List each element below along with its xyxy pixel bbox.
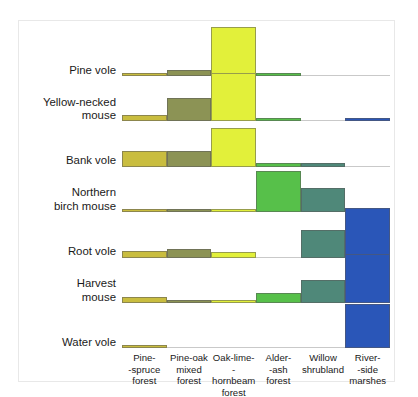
bar — [122, 251, 167, 258]
bar — [256, 171, 301, 213]
x-tick-label-line: Oak-lime- — [211, 352, 256, 364]
x-tick-label-line: -side — [345, 364, 390, 376]
species-label: Harvestmouse — [18, 277, 116, 304]
bar — [211, 128, 256, 167]
x-tick-label-line: Pine- — [122, 352, 167, 364]
bar — [122, 115, 167, 122]
species-label-line: Northern — [18, 186, 116, 199]
bar — [211, 73, 256, 121]
x-tick-label-line: shrubland — [301, 364, 346, 376]
x-tick-label: Willowshrubland — [301, 352, 346, 375]
bar — [345, 254, 390, 303]
species-label: Yellow-neckedmouse — [18, 96, 116, 123]
bar — [167, 249, 212, 258]
x-tick-label-line: mixed — [167, 364, 212, 376]
bar — [345, 304, 390, 348]
bar — [211, 252, 256, 257]
x-tick-label-line: Pine-oak — [167, 352, 212, 364]
plot-area: Pine voleYellow-neckedmouseBank voleNort… — [18, 20, 395, 382]
species-label-line: Water vole — [18, 336, 116, 349]
x-axis-tick-labels: Pine--spruceforestPine-oakmixedforestOak… — [122, 352, 390, 397]
bar — [167, 151, 212, 167]
species-label-line: Bank vole — [18, 154, 116, 167]
x-tick-label: Oak-lime--hornbeamforest — [211, 352, 256, 397]
species-label-line: Harvest — [18, 277, 116, 290]
bar — [256, 293, 301, 303]
bar — [211, 300, 256, 303]
bar — [122, 297, 167, 304]
bar — [301, 188, 346, 213]
x-tick-label-line: Alder- — [256, 352, 301, 364]
species-label: Bank vole — [18, 154, 116, 167]
x-tick-label-line: Willow — [301, 352, 346, 364]
x-tick-label: Pine--spruceforest — [122, 352, 167, 387]
bar — [167, 209, 212, 212]
species-label: Water vole — [18, 336, 116, 349]
x-tick-label: Alder--ashforest — [256, 352, 301, 387]
species-label-line: Root vole — [18, 245, 116, 258]
x-tick-label-line: forest — [122, 375, 167, 387]
bar — [345, 208, 390, 257]
species-label-line: mouse — [18, 291, 116, 304]
bar — [167, 98, 212, 121]
x-tick-label-line: forest — [256, 375, 301, 387]
species-label: Root vole — [18, 245, 116, 258]
bar — [122, 73, 167, 76]
bar — [122, 209, 167, 212]
species-label-line: Yellow-necked — [18, 96, 116, 109]
bar — [301, 163, 346, 167]
x-tick-label-line: forest — [211, 387, 256, 397]
species-label: Pine vole — [18, 64, 116, 77]
bar — [256, 118, 301, 122]
bar — [256, 163, 301, 167]
bar — [167, 70, 212, 77]
bar — [256, 73, 301, 76]
bar — [301, 280, 346, 303]
species-label-line: birch mouse — [18, 200, 116, 213]
species-label-line: mouse — [18, 109, 116, 122]
species-rows: Pine voleYellow-neckedmouseBank voleNort… — [18, 26, 395, 344]
bar — [345, 118, 390, 121]
x-tick-label-line: marshes — [345, 375, 390, 387]
bar — [122, 345, 167, 348]
species-label-line: Pine vole — [18, 64, 116, 77]
bar — [211, 27, 256, 76]
x-tick-label-line: -spruce — [122, 364, 167, 376]
x-tick-label: Pine-oakmixedforest — [167, 352, 212, 387]
x-tick-label-line: River- — [345, 352, 390, 364]
x-tick-label-line: forest — [167, 375, 212, 387]
bar — [211, 209, 256, 212]
x-tick-label: River--sidemarshes — [345, 352, 390, 387]
x-tick-label-line: -ash — [256, 364, 301, 376]
bar — [167, 300, 212, 303]
figure-root: Pine voleYellow-neckedmouseBank voleNort… — [0, 0, 418, 397]
species-label: Northernbirch mouse — [18, 186, 116, 213]
bar — [122, 151, 167, 167]
x-tick-label-line: -hornbeam — [211, 364, 256, 387]
bar — [301, 230, 346, 257]
